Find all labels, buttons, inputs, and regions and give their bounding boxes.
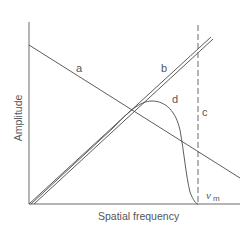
- diagram-canvas: a b c d ν m Spatial frequency Amplitude: [0, 0, 251, 234]
- label-d: d: [172, 93, 178, 105]
- y-axis-label: Amplitude: [12, 95, 24, 142]
- label-c: c: [202, 106, 208, 118]
- label-b: b: [161, 62, 167, 74]
- cutoff-subscript: m: [213, 194, 220, 203]
- cutoff-symbol: ν: [206, 189, 211, 201]
- x-axis-label: Spatial frequency: [98, 210, 180, 222]
- label-a: a: [76, 62, 83, 74]
- curve-b-lower: [34, 39, 213, 204]
- curve-d: [31, 101, 198, 204]
